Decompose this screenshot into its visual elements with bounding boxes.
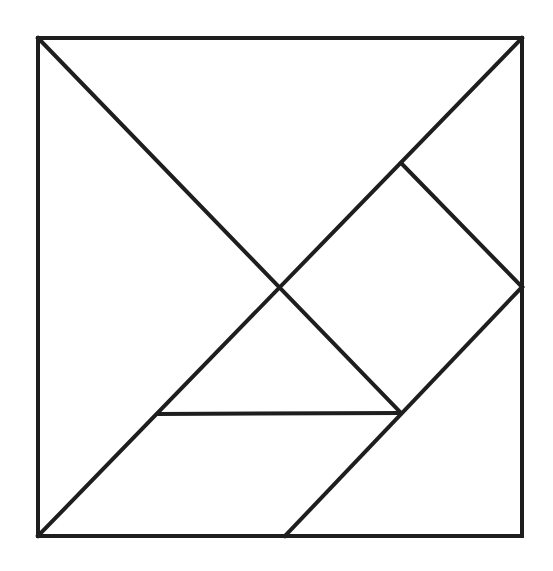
- diagonal-main-descending: [38, 38, 401, 413]
- tangram-diagram: [0, 0, 553, 571]
- tangram-lines: [38, 38, 522, 536]
- horizontal-divider: [158, 413, 401, 414]
- square-top-right-edge: [401, 163, 522, 287]
